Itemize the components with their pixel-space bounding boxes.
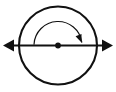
diagram-svg	[0, 0, 116, 92]
center-point-dot	[55, 43, 61, 49]
diagram-canvas	[0, 0, 116, 92]
